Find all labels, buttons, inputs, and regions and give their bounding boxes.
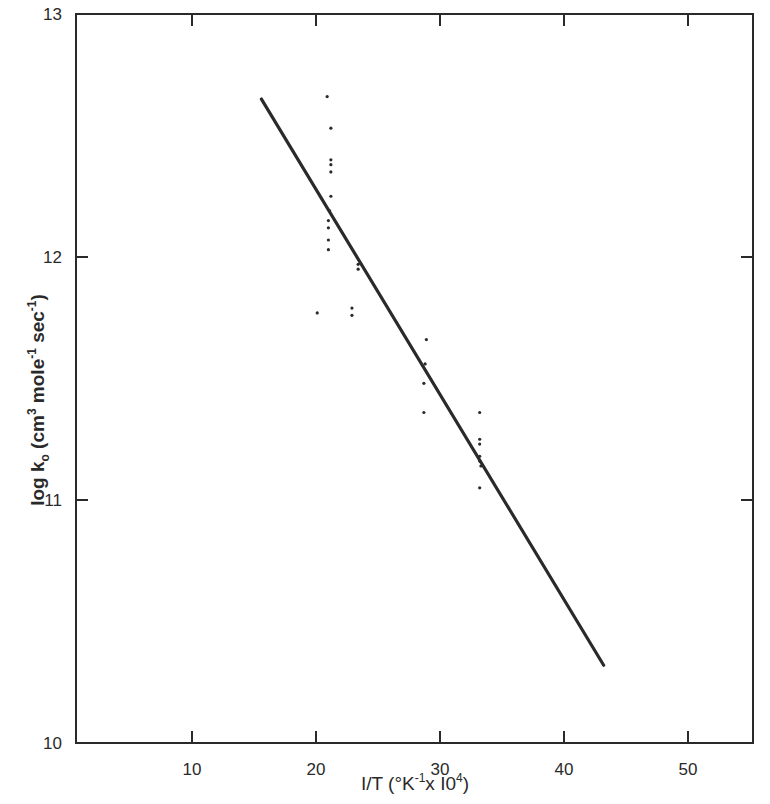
- y-tick-label: 13: [43, 5, 62, 24]
- x-axis-title: I/T (°K-1x I04): [361, 771, 469, 794]
- data-points: [316, 95, 483, 489]
- data-point: [329, 163, 332, 166]
- data-point: [350, 314, 353, 317]
- data-point: [329, 127, 332, 130]
- data-point: [329, 158, 332, 161]
- data-point: [357, 263, 360, 266]
- y-tick-label: 12: [43, 248, 62, 267]
- data-point: [329, 195, 332, 198]
- fitted-line: [261, 99, 603, 665]
- regression-line: [261, 99, 603, 665]
- data-point: [326, 95, 329, 98]
- data-point: [329, 170, 332, 173]
- data-point: [357, 268, 360, 271]
- data-point: [478, 455, 481, 458]
- data-point: [327, 219, 330, 222]
- x-tick-label: 50: [679, 760, 698, 779]
- x-tick-label: 10: [183, 760, 202, 779]
- y-tick-label: 10: [43, 734, 62, 753]
- data-point: [425, 338, 428, 341]
- x-tick-label: 40: [555, 760, 574, 779]
- data-point: [327, 226, 330, 229]
- data-point: [424, 362, 427, 365]
- chart: 1020304050 10111213 I/T (°K-1x I04) log …: [0, 0, 770, 804]
- data-point: [316, 311, 319, 314]
- data-point: [350, 306, 353, 309]
- data-point: [478, 486, 481, 489]
- data-point: [422, 382, 425, 385]
- plot-border: [76, 14, 753, 743]
- data-point: [478, 411, 481, 414]
- data-point: [328, 209, 331, 212]
- data-point: [478, 443, 481, 446]
- data-point: [478, 438, 481, 441]
- data-point: [479, 464, 482, 467]
- data-point: [327, 238, 330, 241]
- data-point: [327, 248, 330, 251]
- y-axis-title: log ko (cm3 mole-1 sec-1): [25, 294, 52, 506]
- data-point: [478, 460, 481, 463]
- plot-frame: [76, 14, 753, 743]
- y-axis-ticks: 10111213: [43, 5, 753, 753]
- data-point: [422, 411, 425, 414]
- x-tick-label: 20: [307, 760, 326, 779]
